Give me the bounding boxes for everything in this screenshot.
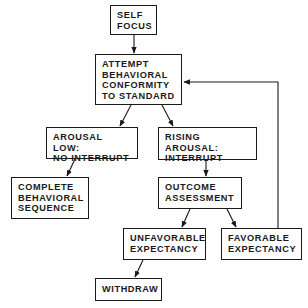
node-favorable-expectancy: FAVORABLE EXPECTANCY — [221, 228, 302, 260]
node-self-focus: SELF FOCUS — [110, 5, 157, 35]
edge-outcome-to-unfavorable — [182, 209, 190, 227]
node-outcome-assessment: OUTCOME ASSESSMENT — [158, 177, 242, 209]
edge-attempt-to-arousal-low — [120, 105, 131, 126]
edge-unfavorable-to-withdraw — [135, 260, 143, 277]
node-unfavorable-expectancy: UNFAVORABLE EXPECTANCY — [123, 228, 206, 260]
edge-outcome-to-favorable — [227, 209, 236, 227]
node-withdraw: WITHDRAW — [95, 278, 162, 301]
node-attempt-behavioral-conformity: ATTEMPT BEHAVIORAL CONFORMITY TO STANDAR… — [95, 54, 182, 105]
node-rising-arousal: RISING AROUSAL: INTERRUPT — [158, 127, 257, 160]
node-complete-behavioral-sequence: COMPLETE BEHAVIORAL SEQUENCE — [11, 177, 89, 219]
edge-attempt-to-rising-arousal — [162, 105, 173, 126]
node-arousal-low: AROUSAL LOW: NO INTERRUPT — [46, 127, 138, 159]
